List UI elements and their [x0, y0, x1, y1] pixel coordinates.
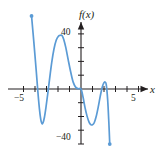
x-tick-label-5: 5: [131, 94, 136, 104]
y-axis-title: f(x): [79, 9, 94, 20]
y-tick-label-40: 40: [61, 28, 71, 38]
graph-figure: f(x) x 40 −40 −5 5: [0, 0, 161, 156]
x-axis-arrow-icon: [141, 86, 149, 92]
curve-end-endpoint: [108, 142, 112, 146]
y-axis-arrow-icon: [78, 22, 84, 30]
curve-start-endpoint: [30, 14, 34, 18]
x-axis-title: x: [150, 84, 155, 95]
plot-canvas: [0, 0, 161, 156]
y-tick-label-neg40: −40: [56, 133, 71, 143]
x-tick-label-neg5: −5: [14, 94, 24, 104]
